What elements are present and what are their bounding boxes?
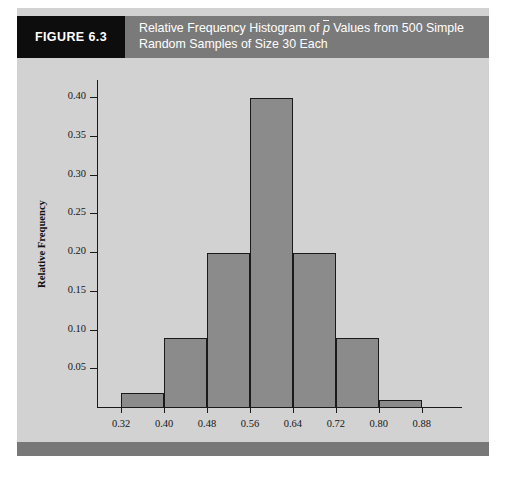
y-axis-tick: 0.30 <box>90 175 97 176</box>
histogram-bar <box>164 338 207 408</box>
y-axis-tick-label: 0.25 <box>68 206 86 217</box>
x-axis-tick <box>336 408 337 413</box>
figure-footer-bar <box>17 442 489 456</box>
x-axis-tick-label: 0.72 <box>327 418 345 429</box>
plot-area: Relative Frequency 0.050.100.150.200.250… <box>17 58 489 430</box>
figure-container: FIGURE 6.3 Relative Frequency Histogram … <box>17 8 489 456</box>
histogram-bar <box>250 98 293 408</box>
y-axis-tick-label: 0.15 <box>68 284 86 295</box>
figure-header: FIGURE 6.3 Relative Frequency Histogram … <box>17 16 489 58</box>
figure-title: Relative Frequency Histogram of p Values… <box>125 16 489 58</box>
y-axis-tick: 0.35 <box>90 136 97 137</box>
x-axis-tick-label: 0.56 <box>241 418 259 429</box>
figure-title-part1: Relative Frequency Histogram of <box>139 21 323 35</box>
y-axis-label: Relative Frequency <box>36 200 47 288</box>
y-axis-tick: 0.15 <box>90 291 97 292</box>
x-axis-tick-label: 0.32 <box>112 418 130 429</box>
x-axis-tick-label: 0.48 <box>198 418 216 429</box>
p-bar-symbol: p <box>323 21 330 37</box>
y-axis-tick: 0.20 <box>90 252 97 253</box>
chart-axes: 0.050.100.150.200.250.300.350.400.320.40… <box>97 80 462 408</box>
x-axis-tick <box>422 408 423 413</box>
y-axis-tick: 0.40 <box>90 97 97 98</box>
y-axis-tick-label: 0.10 <box>68 323 86 334</box>
x-axis-tick-label: 0.64 <box>284 418 302 429</box>
x-axis-tick <box>293 408 294 413</box>
y-axis-tick-label: 0.05 <box>68 361 86 372</box>
y-axis-tick-label: 0.20 <box>68 245 86 256</box>
y-axis-tick: 0.10 <box>90 330 97 331</box>
y-axis-tick-label: 0.40 <box>68 90 86 101</box>
histogram-bar <box>293 253 336 408</box>
x-axis-tick-label: 0.80 <box>370 418 388 429</box>
figure-title-line2: Random Samples of Size 30 Each <box>139 37 328 51</box>
x-axis-tick <box>164 408 165 413</box>
y-axis-tick-label: 0.30 <box>68 168 86 179</box>
histogram-bar <box>121 393 164 408</box>
y-axis-tick: 0.05 <box>90 368 97 369</box>
x-axis-tick <box>250 408 251 413</box>
y-axis-tick-label: 0.35 <box>68 129 86 140</box>
x-axis-tick <box>207 408 208 413</box>
x-axis-tick-label: 0.88 <box>413 418 431 429</box>
x-axis-tick <box>121 408 122 413</box>
x-axis-tick-label: 0.40 <box>155 418 173 429</box>
figure-title-part2: Values from 500 Simple <box>330 21 464 35</box>
x-axis-tick <box>379 408 380 413</box>
histogram-bar <box>336 338 379 408</box>
histogram-bar <box>379 400 422 408</box>
figure-number-tag: FIGURE 6.3 <box>17 16 125 58</box>
y-axis-tick: 0.25 <box>90 213 97 214</box>
histogram-bar <box>207 253 250 408</box>
y-axis-line <box>97 80 98 408</box>
